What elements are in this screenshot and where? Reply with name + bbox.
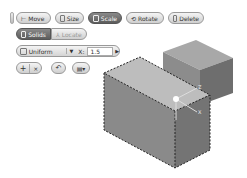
z-axis-label: Z (198, 84, 202, 90)
x-axis-label: X (198, 109, 202, 115)
triad-origin-handle[interactable] (173, 96, 179, 102)
3d-viewport[interactable]: Z X (0, 0, 247, 178)
